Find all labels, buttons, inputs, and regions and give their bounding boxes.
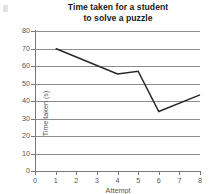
chart-figure: Time taken for a student to solve a puzz… <box>0 0 211 194</box>
y-tick-label-80: 80 <box>6 27 30 34</box>
y-tick-label-60: 60 <box>6 62 30 69</box>
chart-title: Time taken for a student to solve a puzz… <box>30 2 206 23</box>
x-tick-label-0: 0 <box>28 177 42 184</box>
x-tick-label-2: 2 <box>69 177 83 184</box>
y-tick-label-70: 70 <box>6 45 30 52</box>
y-tick-label-0: 0 <box>6 167 30 174</box>
plot-area: Time taken (s) <box>35 31 200 171</box>
scan-artifact <box>3 5 8 12</box>
chart-title-line-2: to solve a puzzle <box>30 13 206 24</box>
x-tick-label-6: 6 <box>152 177 166 184</box>
x-tick-label-1: 1 <box>49 177 63 184</box>
x-tick-label-5: 5 <box>131 177 145 184</box>
y-tick-label-10: 10 <box>6 150 30 157</box>
y-tick-label-20: 20 <box>6 132 30 139</box>
y-tick-label-50: 50 <box>6 80 30 87</box>
chart-title-line-1: Time taken for a student <box>30 2 206 13</box>
y-tick-label-40: 40 <box>6 97 30 104</box>
x-tick-label-7: 7 <box>172 177 186 184</box>
x-axis-spine <box>35 171 201 172</box>
y-tick-label-30: 30 <box>6 115 30 122</box>
x-axis-title: Attempt <box>35 186 201 194</box>
x-tick-label-8: 8 <box>193 177 207 184</box>
series-line-time-taken <box>35 31 200 171</box>
x-tick-label-4: 4 <box>111 177 125 184</box>
y-axis-title: Time taken (s) <box>41 66 50 162</box>
x-tick-label-3: 3 <box>90 177 104 184</box>
